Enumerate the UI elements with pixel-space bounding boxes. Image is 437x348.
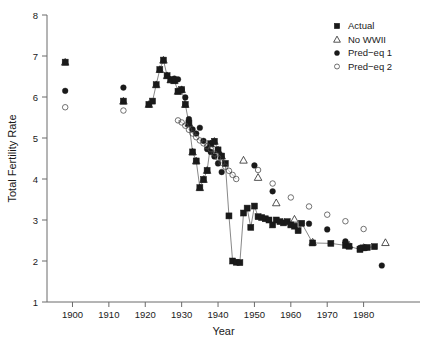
data-point (237, 260, 243, 266)
data-point (361, 226, 367, 232)
data-point (121, 85, 127, 91)
data-point (324, 212, 330, 218)
x-tick-label-1940: 1940 (207, 309, 228, 320)
series-pred-eq-1 (62, 76, 384, 269)
y-tick-label-7: 7 (33, 51, 38, 62)
data-point (219, 169, 225, 175)
x-tick-label-1920: 1920 (135, 309, 156, 320)
data-point (306, 204, 312, 210)
data-point (62, 88, 68, 94)
data-point (343, 238, 349, 244)
legend-marker-0 (334, 23, 339, 28)
data-point (270, 181, 276, 187)
x-tick-label-1950: 1950 (244, 309, 265, 320)
legend-marker-1 (334, 36, 341, 42)
y-axis-title: Total Fertility Rate (6, 114, 18, 202)
x-tick-label-1900: 1900 (62, 309, 83, 320)
y-tick-label-6: 6 (33, 92, 38, 103)
x-tick-label-1910: 1910 (98, 309, 119, 320)
data-point (372, 244, 378, 250)
data-point (197, 125, 203, 131)
data-point (299, 220, 305, 226)
y-tick-label-3: 3 (33, 215, 38, 226)
legend-marker-2 (334, 50, 339, 55)
data-point (295, 228, 301, 234)
legend-label-3: Pred−eq 2 (348, 61, 392, 72)
data-point (248, 224, 254, 230)
fertility-rate-chart: 1234567819001910192019301940195019601970… (0, 0, 437, 348)
data-point (62, 104, 68, 110)
data-point (121, 108, 127, 114)
data-point (270, 188, 276, 194)
x-tick-label-1980: 1980 (353, 309, 374, 320)
data-point (175, 77, 181, 83)
data-point (226, 213, 232, 219)
x-tick-label-1960: 1960 (280, 309, 301, 320)
data-point (379, 263, 385, 269)
data-point (273, 199, 281, 206)
data-point (357, 245, 363, 251)
data-point (244, 205, 250, 211)
data-point (215, 161, 221, 167)
legend: ActualNo WWIIPred−eq 1Pred−eq 2 (334, 20, 392, 72)
legend-label-1: No WWII (348, 34, 386, 45)
data-point (251, 203, 257, 209)
x-tick-label-1930: 1930 (171, 309, 192, 320)
y-tick-label-5: 5 (33, 133, 38, 144)
data-point (182, 95, 188, 101)
chart-canvas: 1234567819001910192019301940195019601970… (0, 0, 437, 348)
y-tick-label-1: 1 (33, 297, 38, 308)
series-no-wwii (61, 56, 389, 250)
data-point (288, 195, 294, 201)
data-point (324, 227, 330, 233)
y-tick-label-4: 4 (33, 174, 38, 185)
legend-label-0: Actual (348, 20, 374, 31)
legend-label-2: Pred−eq 1 (348, 47, 392, 58)
legend-marker-3 (335, 64, 340, 69)
series-pred-eq-2 (62, 104, 366, 231)
data-point (179, 87, 185, 93)
y-tick-label-2: 2 (33, 256, 38, 267)
data-point (306, 221, 312, 227)
data-point (186, 116, 192, 122)
x-tick-label-1970: 1970 (317, 309, 338, 320)
data-point (291, 215, 299, 222)
y-tick-label-8: 8 (33, 10, 38, 21)
data-point (343, 218, 349, 224)
data-point (382, 239, 390, 246)
data-point (255, 167, 261, 173)
data-point (254, 174, 262, 181)
x-axis-title: Year (212, 325, 235, 337)
data-point (328, 240, 334, 246)
data-point (240, 156, 248, 163)
